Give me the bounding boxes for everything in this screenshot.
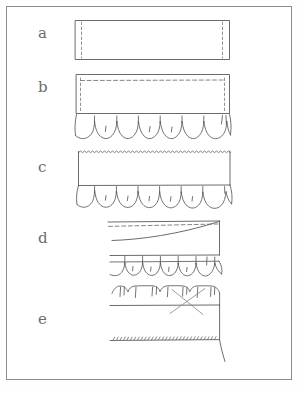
panel-e — [14, 280, 280, 365]
panel-a — [14, 16, 280, 66]
panel-b — [14, 70, 280, 140]
figure-root: a b c d e — [0, 0, 301, 393]
panel-c — [14, 145, 280, 213]
panel-d — [14, 216, 280, 278]
